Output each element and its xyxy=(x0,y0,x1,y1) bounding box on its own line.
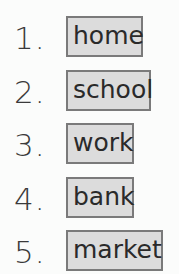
list-item: 4. bank xyxy=(0,177,179,221)
list-item: 2. school xyxy=(0,70,179,114)
word-box: work xyxy=(66,123,134,164)
word-box: market xyxy=(66,230,163,271)
item-number: 5. xyxy=(14,232,46,272)
list-item: 1. home xyxy=(0,16,179,60)
word-box: school xyxy=(66,70,151,111)
item-number: 4. xyxy=(14,179,46,219)
item-number: 1. xyxy=(14,18,46,58)
item-number: 3. xyxy=(14,125,46,165)
list-item: 3. work xyxy=(0,123,179,167)
word-box: home xyxy=(66,16,143,57)
list-item: 5. market xyxy=(0,230,179,274)
word-box: bank xyxy=(66,177,134,218)
item-number: 2. xyxy=(14,72,46,112)
